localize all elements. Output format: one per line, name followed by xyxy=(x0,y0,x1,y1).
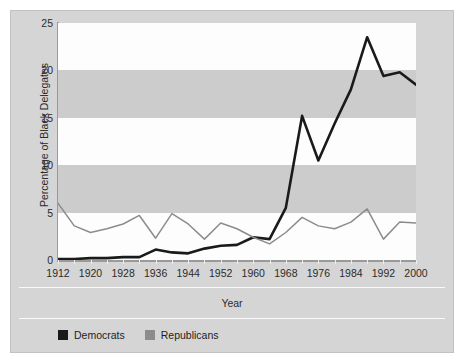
legend-label: Democrats xyxy=(74,329,125,341)
x-tick-mark xyxy=(318,260,319,264)
x-tick-mark xyxy=(204,260,205,264)
x-tick-mark xyxy=(400,260,401,264)
x-tick-mark xyxy=(107,260,108,264)
legend-item: Republicans xyxy=(145,329,219,341)
legend-swatch-icon xyxy=(145,330,155,340)
x-tick-mark xyxy=(172,260,173,264)
x-tick-mark xyxy=(253,260,254,264)
x-tick-label: 2000 xyxy=(396,267,436,281)
y-axis-title: Percentage of Black Delegates xyxy=(38,40,50,230)
x-tick-mark xyxy=(123,260,124,264)
x-axis-title-band: Year xyxy=(19,287,445,319)
y-tick-label: 0 xyxy=(9,255,53,266)
x-tick-mark xyxy=(156,260,157,264)
plot-lines xyxy=(58,23,416,260)
x-tick-mark xyxy=(383,260,384,264)
x-tick-mark xyxy=(74,260,75,264)
x-axis-tick-labels: 1912192019281936194419521960196819761984… xyxy=(11,267,453,283)
x-tick-mark xyxy=(237,260,238,264)
y-tick-label: 25 xyxy=(9,18,53,29)
series-line-republicans xyxy=(58,203,416,244)
x-tick-mark xyxy=(302,260,303,264)
x-tick-mark xyxy=(335,260,336,264)
x-tick-mark xyxy=(188,260,189,264)
legend-label: Republicans xyxy=(161,329,219,341)
x-tick-mark xyxy=(270,260,271,264)
x-tick-mark xyxy=(139,260,140,264)
x-tick-mark xyxy=(91,260,92,264)
x-tick-mark xyxy=(221,260,222,264)
x-axis-title: Year xyxy=(19,297,445,309)
x-tick-mark xyxy=(58,260,59,264)
divider-bottom xyxy=(19,318,445,319)
x-axis-ticks xyxy=(58,260,416,266)
x-tick-mark xyxy=(286,260,287,264)
divider-top xyxy=(19,287,445,288)
x-tick-mark xyxy=(416,260,417,264)
legend-swatch-icon xyxy=(58,330,68,340)
chart-figure: 0510152025 Percentage of Black Delegates… xyxy=(10,10,454,353)
plot-area xyxy=(58,23,416,260)
x-tick-mark xyxy=(367,260,368,264)
legend-item: Democrats xyxy=(58,329,125,341)
series-line-democrats xyxy=(58,37,416,259)
chart-legend: DemocratsRepublicans xyxy=(58,329,219,341)
x-tick-mark xyxy=(351,260,352,264)
